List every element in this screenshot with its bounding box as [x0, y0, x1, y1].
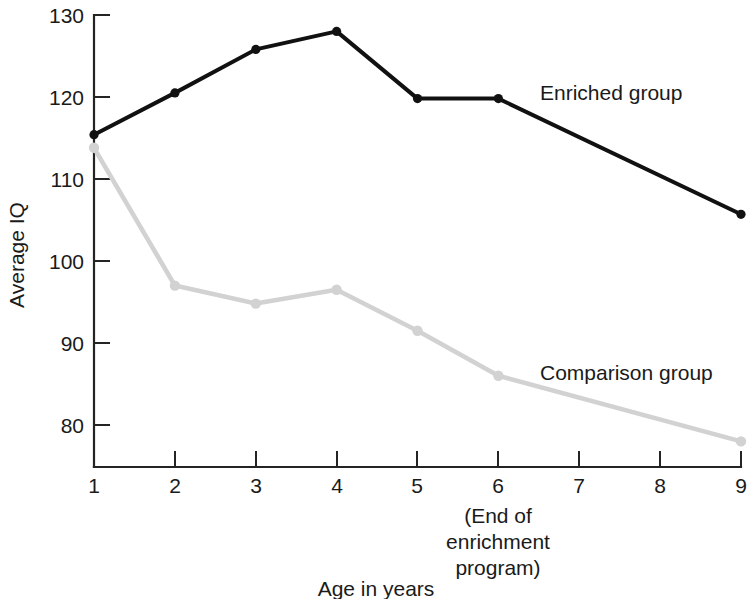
data-point — [736, 436, 746, 446]
data-point — [251, 45, 260, 54]
data-point — [89, 130, 98, 139]
series-markers-enriched — [89, 27, 745, 219]
series-line-enriched — [94, 31, 741, 214]
y-tick-label-90: 90 — [61, 332, 84, 355]
data-point — [170, 280, 180, 290]
y-tick-label-110: 110 — [51, 168, 84, 191]
annotation-end-of-program-line2: enrichment — [446, 530, 550, 553]
x-tick-label-9: 9 — [735, 474, 747, 497]
y-tick-label-120: 120 — [49, 86, 84, 109]
iq-line-chart: 130 120 110 100 90 80 1 2 3 4 5 6 7 8 9 — [0, 0, 752, 599]
x-tick-label-7: 7 — [573, 474, 585, 497]
x-tick-label-3: 3 — [250, 474, 262, 497]
x-tick-label-4: 4 — [331, 474, 343, 497]
x-tick-label-8: 8 — [654, 474, 666, 497]
x-axis-title: Age in years — [318, 577, 435, 599]
y-tick-label-100: 100 — [49, 250, 84, 273]
data-point — [493, 371, 503, 381]
y-tick-label-80: 80 — [61, 414, 84, 437]
data-point — [89, 143, 99, 153]
annotation-end-of-program-line1: (End of — [464, 504, 532, 527]
x-tick-label-5: 5 — [411, 474, 423, 497]
data-point — [170, 88, 179, 97]
x-axis-ticks — [94, 451, 741, 467]
series-label-comparison: Comparison group — [540, 361, 713, 384]
chart-container: 130 120 110 100 90 80 1 2 3 4 5 6 7 8 9 — [0, 0, 752, 599]
data-point — [412, 326, 422, 336]
data-point — [332, 27, 341, 36]
y-tick-label-130: 130 — [49, 4, 84, 27]
y-axis-title: Average IQ — [5, 202, 28, 308]
annotation-end-of-program-line3: program) — [455, 556, 540, 579]
data-point — [494, 94, 503, 103]
x-tick-label-2: 2 — [169, 474, 181, 497]
y-axis-ticks — [94, 15, 110, 425]
data-point — [331, 285, 341, 295]
data-point — [413, 94, 422, 103]
series-label-enriched: Enriched group — [540, 81, 682, 104]
x-tick-label-1: 1 — [88, 474, 100, 497]
data-point — [736, 210, 745, 219]
series-markers-comparison — [89, 143, 746, 447]
series-line-comparison — [94, 148, 741, 442]
data-point — [251, 298, 261, 308]
x-tick-label-6: 6 — [492, 474, 504, 497]
